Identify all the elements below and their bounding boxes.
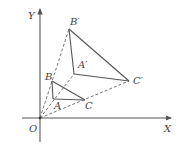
point-label-o: O — [29, 123, 37, 134]
segment-c-prime-a-prime — [74, 74, 129, 81]
point-label-c: C — [85, 100, 93, 111]
point-label-c-prime: C′ — [133, 75, 144, 86]
point-label-b-prime: B′ — [69, 16, 80, 27]
point-label-a: A — [53, 100, 61, 111]
origin-point — [39, 117, 41, 119]
diagram-canvas: X Y OABCA′B′C′ — [0, 0, 184, 149]
point-label-b: B — [44, 71, 52, 82]
point-labels: X Y OABCA′B′C′ — [28, 10, 172, 134]
segment-b-c — [52, 81, 85, 100]
segment-a-prime-b-prime — [69, 29, 74, 74]
y-axis-label: Y — [28, 10, 36, 21]
segment-b-prime-c-prime — [69, 29, 129, 81]
point-label-a-prime: A′ — [77, 59, 88, 70]
x-axis-label: X — [163, 123, 172, 134]
segment-a-b — [52, 81, 53, 99]
triangles — [52, 29, 129, 100]
